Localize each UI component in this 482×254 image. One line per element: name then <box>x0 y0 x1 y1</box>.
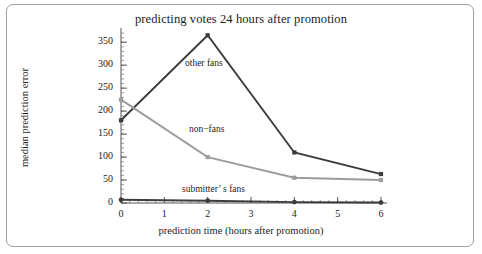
x-tick-label: 3 <box>241 208 261 219</box>
y-tick-label: 150 <box>79 127 113 138</box>
minor-tick-marks <box>121 33 381 203</box>
y-tick-label: 350 <box>79 35 113 46</box>
x-tick-label: 4 <box>284 208 304 219</box>
y-tick-label: 0 <box>79 196 113 207</box>
chart-area: predicting votes 24 hours after promotio… <box>0 0 482 254</box>
y-tick-label: 250 <box>79 81 113 92</box>
y-axis-title: median prediction error <box>19 28 30 208</box>
y-tick-label: 200 <box>79 104 113 115</box>
series-label-submitters-fans: submitter’ s fans <box>182 184 245 194</box>
axis-lines <box>121 28 387 203</box>
series-label-other-fans: other fans <box>185 58 223 68</box>
y-tick-label: 300 <box>79 58 113 69</box>
series-label-non-fans: non−fans <box>189 124 224 134</box>
series-lines <box>121 35 381 202</box>
x-tick-label: 6 <box>371 208 391 219</box>
y-tick-label: 100 <box>79 150 113 161</box>
x-tick-label: 2 <box>198 208 218 219</box>
x-tick-label: 1 <box>154 208 174 219</box>
y-tick-label: 50 <box>79 173 113 184</box>
x-axis-title: prediction time (hours after promotion) <box>0 225 482 236</box>
x-tick-label: 0 <box>111 208 131 219</box>
x-tick-label: 5 <box>328 208 348 219</box>
